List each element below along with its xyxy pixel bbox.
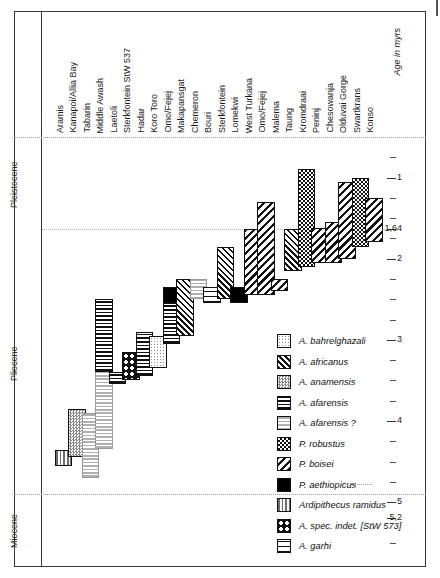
legend-item-bahrelghazali: A. bahrelghazali — [277, 331, 427, 352]
axis-tick-label: 1 — [397, 172, 402, 182]
legend-label: A. afarensis — [299, 398, 348, 408]
legend-label: P. aethiopicus — [299, 480, 356, 490]
epoch-label-pliocene: Pliocene — [0, 233, 28, 494]
axis-tick — [387, 259, 396, 260]
axis-title: Age in myrs — [392, 28, 402, 76]
legend: A. bahrelghazaliA. africanusA. anamensis… — [277, 331, 427, 557]
legend-swatch-anamensis — [277, 375, 291, 389]
axis-minor-tick — [390, 299, 396, 300]
range-bar — [365, 198, 383, 243]
range-bar — [271, 279, 289, 291]
legend-item-afarensis_q: A. afarensis ? — [277, 413, 427, 434]
legend-item-robustus: P. robustus — [277, 434, 427, 455]
axis-tick-label: 2 — [397, 253, 402, 263]
legend-swatch-stw573 — [277, 519, 291, 533]
legend-swatch-garhi — [277, 539, 291, 553]
legend-label: A. anamensis — [299, 377, 355, 387]
legend-item-afarensis: A. afarensis — [277, 393, 427, 414]
legend-label: A. bahrelghazali — [299, 336, 366, 346]
legend-swatch-bahrelghazali — [277, 334, 291, 348]
legend-swatch-afarensis — [277, 396, 291, 410]
legend-swatch-africanus — [277, 355, 291, 369]
legend-label: A. africanus — [299, 357, 348, 367]
axis-tick-label: 1,64 — [384, 223, 402, 233]
epoch-label-pleistocene: Pleistocene — [0, 137, 28, 233]
page-corner-mark — [436, 0, 438, 16]
axis-minor-tick — [390, 320, 396, 321]
legend-label: Ardipithecus ramidus — [299, 500, 386, 510]
legend-label: P. robustus — [299, 439, 345, 449]
legend-swatch-afarensis_q — [277, 416, 291, 430]
legend-item-africanus: A. africanus — [277, 352, 427, 373]
legend-label: P. boisei — [299, 459, 333, 469]
axis-tick — [387, 178, 396, 179]
range-bar — [95, 299, 113, 372]
legend-item-ardipithecus: Ardipithecus ramidus — [277, 495, 427, 516]
chart-figure: PleistocenePlioceneMiocene AramisKanapoi… — [0, 0, 440, 578]
axis-minor-tick — [390, 157, 396, 158]
legend-swatch-robustus — [277, 437, 291, 451]
axis-minor-tick — [390, 279, 396, 280]
legend-label: A. spec. indet. [StW 573] — [299, 521, 401, 531]
axis-minor-tick — [390, 238, 396, 239]
legend-label: A. afarensis ? — [299, 418, 356, 428]
epoch-label-miocene: Miocene — [0, 494, 28, 567]
legend-swatch-aethiopicus — [277, 478, 291, 492]
legend-item-stw573: A. spec. indet. [StW 573] — [277, 516, 427, 537]
axis-minor-tick — [390, 218, 396, 219]
axis-minor-tick — [390, 198, 396, 199]
legend-item-anamensis: A. anamensis — [277, 372, 427, 393]
legend-item-garhi: A. garhi — [277, 536, 427, 557]
legend-label: A. garhi — [299, 541, 331, 551]
legend-swatch-boisei — [277, 457, 291, 471]
legend-swatch-ardipithecus — [277, 498, 291, 512]
legend-item-aethiopicus: P. aethiopicus — [277, 475, 427, 496]
legend-item-boisei: P. boisei — [277, 454, 427, 475]
